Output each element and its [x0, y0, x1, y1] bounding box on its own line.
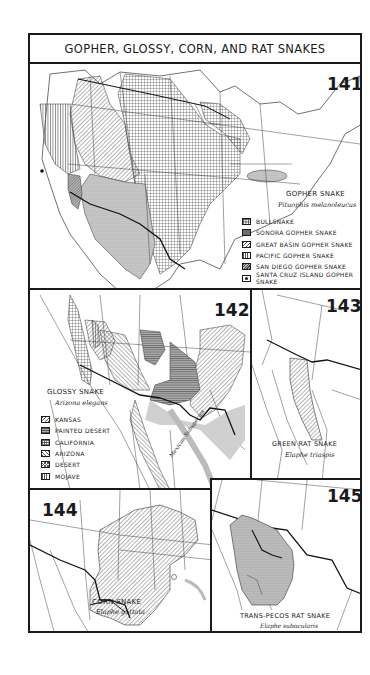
map-142-common-name: GLOSSY SNAKE	[47, 388, 104, 396]
legend-item-pacific: PACIFIC GOPHER SNAKE	[242, 250, 360, 261]
legend-item-sonora: SONORA GOPHER SNAKE	[242, 227, 360, 238]
map-144-number: 144	[42, 500, 78, 520]
san-diego-swatch-icon	[242, 263, 251, 270]
legend-item-kansas: KANSAS	[41, 414, 110, 425]
map-142-number: 142	[214, 300, 250, 320]
mojave-swatch-icon	[41, 473, 50, 480]
map-141-gopher-snake: 141 GOPHER SNAKE Pituophis melanoleucus …	[28, 62, 362, 290]
map-142-scientific-name: Arizona elegans	[55, 399, 108, 407]
sonora-swatch-icon	[242, 229, 251, 236]
map-141-legend: BULLSNAKE SONORA GOPHER SNAKE GREAT BASI…	[242, 216, 360, 284]
map-144-scientific-name: Elaphe guttata	[96, 608, 145, 616]
arizona-swatch-icon	[41, 450, 50, 457]
map-144-corn-snake: 144 CORN SNAKE Elaphe guttata	[28, 488, 212, 633]
legend-item-desert: DESERT	[41, 459, 110, 470]
map-141-scientific-name: Pituophis melanoleucus	[278, 201, 356, 209]
map-143-common-name: GREEN RAT SNAKE	[272, 440, 337, 448]
map-142-glossy-snake: 142 GLOSSY SNAKE Arizona elegans Mexican…	[28, 288, 252, 490]
legend-item-arizona: ARIZONA	[41, 448, 110, 459]
legend-item-painted-desert: PAINTED DESERT	[41, 425, 110, 436]
map-141-number: 141	[327, 74, 362, 94]
map-143-scientific-name: Elaphe triaspis	[285, 451, 335, 459]
legend-item-great-basin: GREAT BASIN GOPHER SNAKE	[242, 239, 360, 250]
legend-item-california: CALIFORNIA	[41, 437, 110, 448]
great-basin-swatch-icon	[242, 241, 251, 248]
legend-item-mojave: MOJAVE	[41, 470, 110, 481]
legend-item-bullsnake: BULLSNAKE	[242, 216, 360, 227]
map-143-number: 143	[326, 296, 362, 316]
map-143-green-rat-snake: 143 GREEN RAT SNAKE Elaphe triaspis	[250, 288, 362, 480]
page-title: GOPHER, GLOSSY, CORN, AND RAT SNAKES	[28, 33, 362, 64]
map-145-common-name: TRANS-PECOS RAT SNAKE	[240, 612, 330, 620]
legend-item-santa-cruz: SANTA CRUZ ISLAND GOPHER SNAKE	[242, 272, 360, 283]
map-145-scientific-name: Elaphe subocularis	[260, 622, 318, 629]
map-144-common-name: CORN SNAKE	[92, 598, 141, 606]
california-swatch-icon	[41, 439, 50, 446]
map-142-legend: KANSAS PAINTED DESERT CALIFORNIA ARIZONA…	[41, 414, 110, 482]
map-145-number: 145	[327, 486, 362, 506]
map-141-common-name: GOPHER SNAKE	[286, 190, 345, 198]
painted-desert-swatch-icon	[41, 427, 50, 434]
kansas-swatch-icon	[41, 416, 50, 423]
map-145-trans-pecos-rat-snake: 145 TRANS-PECOS RAT SNAKE Elaphe subocul…	[210, 478, 362, 633]
pacific-swatch-icon	[242, 252, 251, 259]
santa-cruz-swatch-icon	[242, 275, 251, 282]
bullsnake-swatch-icon	[242, 218, 251, 225]
desert-swatch-icon	[41, 461, 50, 468]
